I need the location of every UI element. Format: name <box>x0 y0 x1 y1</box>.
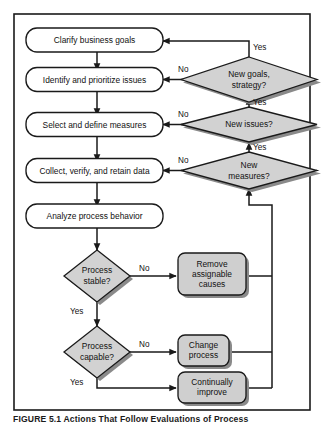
node-select[interactable]: Select and define measures <box>26 113 163 137</box>
figure-caption: FIGURE 5.1 Actions That Follow Evaluatio… <box>13 414 313 424</box>
continually-label-line2: improve <box>197 387 227 397</box>
collect-label: Collect, verify, and retain data <box>39 166 150 176</box>
edge-newgoals-clarify <box>163 41 249 57</box>
identify-label: Identify and prioritize issues <box>43 75 146 85</box>
newgoals-label-line2: strategy? <box>232 80 267 90</box>
remove-label-line1: Remove <box>196 259 228 269</box>
label-yes-goals: Yes <box>253 43 266 52</box>
label-no-goals: No <box>178 65 189 74</box>
label-no-stable: No <box>139 264 150 273</box>
newgoals-label-line1: New goals, <box>228 69 269 79</box>
flowchart-canvas: Clarify business goals Identify and prio… <box>0 0 324 428</box>
analyze-label: Analyze process behavior <box>47 211 143 221</box>
node-newissues[interactable]: New issues? <box>181 107 321 145</box>
stable-label-line2: stable? <box>83 276 110 286</box>
node-continually[interactable]: Continually improve <box>178 372 249 406</box>
newmeasures-label-line1: New <box>241 160 259 170</box>
node-newmeasures[interactable]: New measures? <box>181 152 321 192</box>
select-label: Select and define measures <box>43 120 147 130</box>
node-remove[interactable]: Remove assignable causes <box>178 253 249 298</box>
continually-label-line1: Continually <box>191 377 233 387</box>
node-identify[interactable]: Identify and prioritize issues <box>26 68 163 92</box>
edge-capable-continually <box>97 378 176 388</box>
change-label-line2: process <box>189 350 218 360</box>
label-yes-issues: Yes <box>253 98 266 107</box>
label-yes-measures: Yes <box>253 143 266 152</box>
node-change[interactable]: Change process <box>178 335 232 369</box>
clarify-label: Clarify business goals <box>54 35 135 45</box>
capable-label-line2: capable? <box>80 352 114 362</box>
edge-return-bus-vertical <box>249 189 272 388</box>
capable-label-line1: Process <box>82 341 112 351</box>
node-stable[interactable]: Process stable? <box>64 250 133 305</box>
figure-container: Clarify business goals Identify and prio… <box>0 0 324 428</box>
change-label-line1: Change <box>189 340 219 350</box>
newissues-label: New issues? <box>225 119 273 129</box>
label-yes-stable: Yes <box>70 307 83 316</box>
label-no-capable: No <box>139 340 150 349</box>
label-no-issues: No <box>178 110 189 119</box>
stable-label-line1: Process <box>82 265 112 275</box>
remove-label-line3: causes <box>199 279 226 289</box>
node-collect[interactable]: Collect, verify, and retain data <box>26 159 163 183</box>
node-analyze[interactable]: Analyze process behavior <box>26 204 163 228</box>
remove-label-line2: assignable <box>192 269 232 279</box>
label-yes-capable: Yes <box>70 378 83 387</box>
node-clarify[interactable]: Clarify business goals <box>26 28 163 52</box>
newmeasures-label-line2: measures? <box>228 171 270 181</box>
node-newgoals[interactable]: New goals, strategy? <box>181 57 321 105</box>
node-capable[interactable]: Process capable? <box>64 326 133 381</box>
label-no-measures: No <box>178 156 189 165</box>
